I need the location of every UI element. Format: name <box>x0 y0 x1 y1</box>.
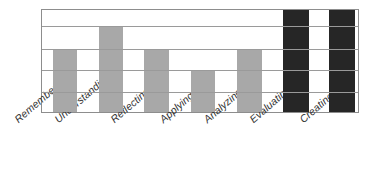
gridline <box>42 26 358 27</box>
bar-applying[interactable] <box>191 70 215 112</box>
bar-understanding[interactable] <box>99 26 123 112</box>
gridline <box>42 49 358 50</box>
bar-creating[interactable] <box>329 9 355 112</box>
bar-remembering[interactable] <box>53 49 77 112</box>
gridline <box>42 70 358 71</box>
plot-area <box>41 9 359 113</box>
bar-analyzing[interactable] <box>237 49 262 112</box>
gridline <box>42 92 358 93</box>
bar-reflecting[interactable] <box>144 49 169 112</box>
bar-evaluating[interactable] <box>283 9 309 112</box>
bar-chart: Remembering Understanding Reflecting App… <box>0 0 377 183</box>
x-axis-labels: Remembering Understanding Reflecting App… <box>0 113 377 183</box>
